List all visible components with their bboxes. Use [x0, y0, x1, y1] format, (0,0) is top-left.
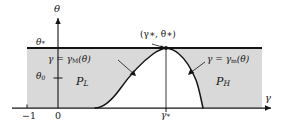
right-curve-equation-label: γ = γm(θ): [207, 55, 249, 64]
region-PH-sub: H: [223, 79, 230, 88]
region-label-PL: PL: [76, 76, 88, 88]
theta-zero-tick-label: θ0: [36, 72, 45, 81]
theta-axis-arrowhead: [55, 18, 60, 24]
gamma-star-tick-label: γ*: [161, 111, 170, 120]
apex-point-label: (γ∗, θ∗): [140, 30, 176, 39]
region-PL-sub: L: [83, 79, 88, 88]
theta-star-sub: *: [41, 39, 45, 48]
minus-one-tick-label: −1: [22, 111, 36, 121]
right-curve-suffix: (θ): [237, 54, 249, 64]
theta-axis-label: θ: [54, 4, 60, 14]
gamma-axis-label: γ: [265, 93, 271, 103]
theta-star-tick-label: θ*: [36, 38, 45, 47]
region-label-PH: PH: [216, 76, 230, 88]
right-curve-prefix: γ = γ: [207, 54, 231, 64]
left-curve-suffix: (θ): [78, 54, 90, 64]
left-curve-equation-label: γ = γM(θ): [48, 55, 91, 64]
left-curve-prefix: γ = γ: [48, 54, 72, 64]
gamma-axis-arrowhead: [265, 105, 271, 111]
theta-zero-sub: 0: [41, 74, 45, 81]
phase-diagram-figure: θ γ θ* θ0 −1 0 γ* (γ∗, θ∗) γ = γM(θ) γ =…: [0, 0, 287, 130]
zero-tick-label: 0: [55, 111, 61, 121]
diagram-canvas: [0, 0, 287, 130]
gamma-star-sub: *: [166, 112, 170, 121]
